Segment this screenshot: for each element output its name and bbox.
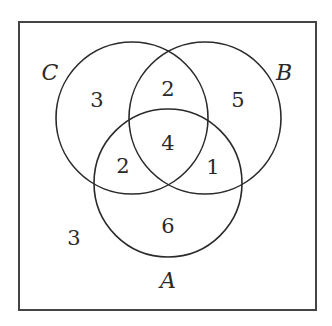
venn-diagram: C B A 3 2 5 4 2 1 6 3 [0, 0, 332, 326]
region-c-only: 3 [90, 88, 103, 112]
region-a-and-c-only: 2 [116, 154, 129, 178]
universal-set-box [19, 22, 316, 310]
region-a-b-c: 4 [161, 131, 174, 155]
set-b-label: B [275, 60, 292, 85]
region-outside: 3 [67, 226, 80, 250]
set-c-label: C [42, 60, 59, 85]
region-a-and-b-only: 1 [206, 155, 219, 179]
region-b-only: 5 [231, 88, 244, 112]
region-a-only: 6 [161, 214, 174, 238]
set-a-label: A [158, 268, 176, 293]
region-b-and-c-only: 2 [161, 77, 174, 101]
